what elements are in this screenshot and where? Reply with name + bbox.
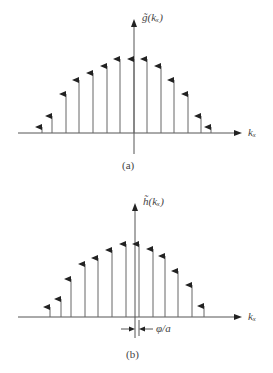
y-axis-label-b: h̃(kₓ) <box>143 195 164 207</box>
arrow-right-icon <box>129 327 135 332</box>
x-axis-label-b: kₓ <box>248 310 256 322</box>
panel-a <box>18 19 242 154</box>
kx-axis-arrow-b-icon <box>234 314 242 320</box>
y-axis-label-a: g̃(kₓ) <box>142 11 163 23</box>
diagram-canvas <box>0 0 273 373</box>
shift-label: φ/a <box>156 322 171 334</box>
y-axis-arrow-b-icon <box>132 203 138 211</box>
stems-b <box>50 244 204 317</box>
y-axis-arrow-a-icon <box>131 19 137 27</box>
arrow-left-icon <box>139 327 145 332</box>
caption-a: (a) <box>122 159 134 171</box>
stems-a <box>42 59 211 133</box>
kx-axis-arrow-a-icon <box>234 130 242 136</box>
x-axis-label-a: kₓ <box>248 126 256 138</box>
caption-b: (b) <box>126 348 139 360</box>
panel-b <box>18 203 242 338</box>
shift-annotation <box>121 320 153 336</box>
